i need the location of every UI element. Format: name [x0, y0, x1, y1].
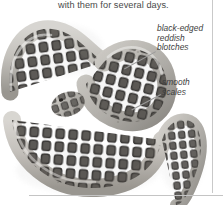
figure-caption: with them for several days. [58, 0, 208, 11]
bottom-divider [29, 195, 223, 196]
annotation-blotches-line-3: blotches [157, 43, 203, 53]
right-divider [212, 0, 213, 193]
annotation-blotches: black-edged reddish blotches [157, 24, 203, 53]
annotation-scales: smooth scales [162, 78, 190, 97]
annotation-scales-line-2: scales [162, 88, 190, 98]
figure-panel: with them for several days. black-edged … [0, 0, 223, 205]
